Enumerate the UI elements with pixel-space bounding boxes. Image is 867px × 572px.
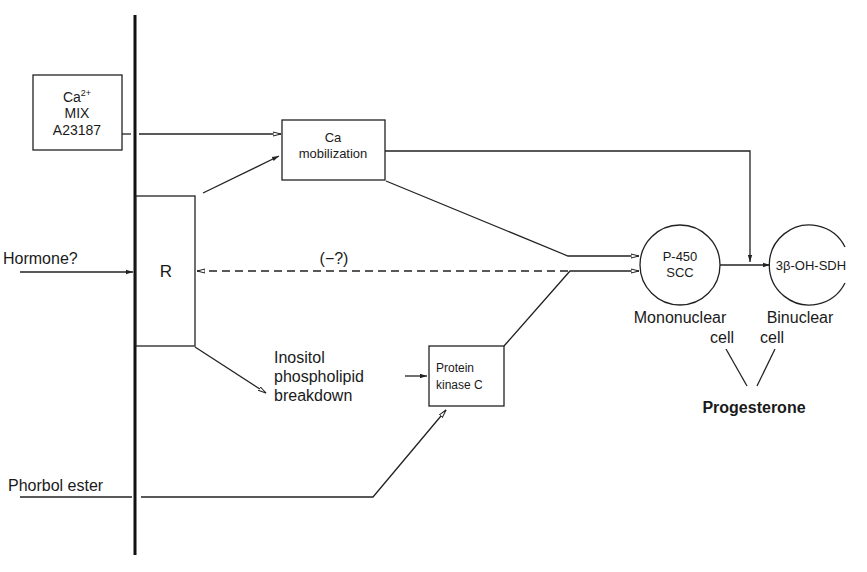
ca-to-p450-arrow xyxy=(386,181,639,256)
mononuclear-cell-label: cell xyxy=(710,329,734,346)
receptor-to-inositol-arrow xyxy=(195,347,266,393)
p450-line2: SCC xyxy=(666,265,693,280)
protein-kinase-c-box: Protein kinase C xyxy=(429,346,504,406)
mononuclear-to-progesterone-line xyxy=(726,349,747,386)
ca-mobilization-line1: Ca xyxy=(325,130,342,145)
progesterone-label: Progesterone xyxy=(702,399,805,416)
ca-mobilization-line2: mobilization xyxy=(299,146,368,161)
binuclear-to-progesterone-line xyxy=(757,349,775,386)
hormone-label: Hormone? xyxy=(3,250,78,267)
binuclear-label: Binuclear xyxy=(767,309,834,326)
ca-mobilization-box: Ca mobilization xyxy=(282,120,385,180)
hsd-label: 3β-OH-SDH xyxy=(776,258,846,273)
feedback-label: (−?) xyxy=(320,250,349,267)
inositol-line3: breakdown xyxy=(274,387,352,404)
pkc-line1: Protein xyxy=(436,361,474,375)
phorbol-to-pkc-arrow xyxy=(141,410,446,497)
ca-mix-a23187-box: Ca2+ MIX A23187 xyxy=(33,75,122,150)
ca-label: Ca xyxy=(63,89,81,105)
pathway-diagram: Ca2+ MIX A23187 Ca mobilization R Hormon… xyxy=(0,0,867,572)
p450-scc-circle: P-450 SCC xyxy=(640,225,720,305)
pkc-line2: kinase C xyxy=(436,378,483,392)
a23187-label: A23187 xyxy=(53,122,101,138)
pkc-to-p450-arrow xyxy=(504,271,639,346)
p450-line1: P-450 xyxy=(663,249,698,264)
ca-superscript: 2+ xyxy=(81,88,91,98)
hsd-circle: 3β-OH-SDH xyxy=(769,225,846,305)
receptor-box: R xyxy=(136,196,195,346)
mix-label: MIX xyxy=(65,105,91,121)
inositol-line2: phospholipid xyxy=(274,368,364,385)
binuclear-cell-label: cell xyxy=(760,329,784,346)
mononuclear-label: Mononuclear xyxy=(634,309,727,326)
receptor-label: R xyxy=(160,262,172,281)
inositol-line1: Inositol xyxy=(274,349,325,366)
phorbol-ester-label: Phorbol ester xyxy=(8,477,104,494)
receptor-to-ca-arrow xyxy=(203,156,279,193)
